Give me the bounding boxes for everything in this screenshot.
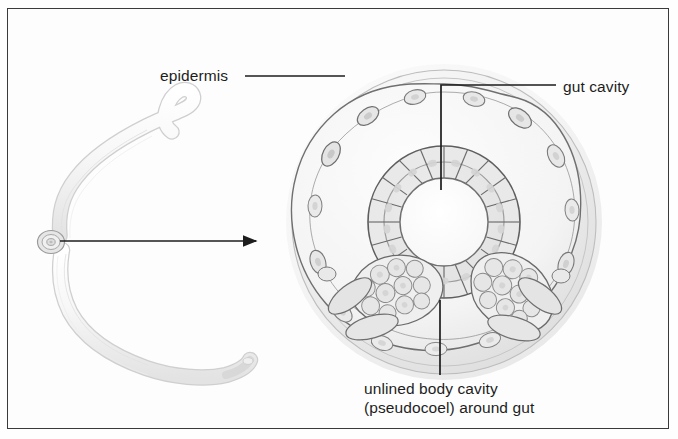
worm-section-ring (38, 231, 65, 254)
label-pseudocoel-line2: (pseudocoel) around gut (364, 398, 534, 417)
label-epidermis: epidermis (160, 66, 228, 85)
illustration-canvas (0, 0, 678, 439)
label-pseudocoel: unlined body cavity (pseudocoel) around … (364, 379, 534, 417)
whole-nematode-worm (38, 90, 254, 378)
figure-root: epidermis gut cavity unlined body cavity… (0, 0, 678, 439)
gut-lumen (400, 178, 488, 266)
label-pseudocoel-line1: unlined body cavity (364, 379, 534, 398)
nematode-cross-section (286, 64, 602, 380)
label-gut-cavity: gut cavity (563, 77, 629, 96)
